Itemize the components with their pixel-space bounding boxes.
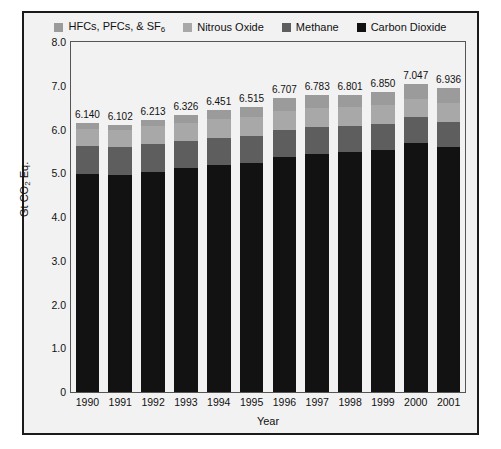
x-tick-label-1993: 1993 xyxy=(174,396,197,408)
legend-swatch-carbon-dioxide xyxy=(357,23,366,32)
bar-value-label: 6.936 xyxy=(436,74,461,85)
y-tick-label: 5.0 xyxy=(51,167,66,179)
bar-segment xyxy=(174,141,198,168)
bar-segment xyxy=(338,95,362,108)
bar-segment xyxy=(437,103,461,121)
bar-value-label: 6.102 xyxy=(108,111,133,122)
bar-1997[interactable]: 6.783 xyxy=(305,95,329,392)
bar-segment xyxy=(338,152,362,392)
x-axis-title: Year xyxy=(70,415,466,427)
legend-swatch-hfcs-pfcs-sf6 xyxy=(54,23,63,32)
bar-value-label: 6.801 xyxy=(338,81,363,92)
y-tick-label: 4.0 xyxy=(51,211,66,223)
y-tick-label: 7.0 xyxy=(51,80,66,92)
bar-segment xyxy=(273,130,297,157)
legend-label-carbon-dioxide: Carbon Dioxide xyxy=(371,21,447,33)
bar-2000[interactable]: 7.047 xyxy=(404,84,428,392)
bar-1990[interactable]: 6.140 xyxy=(76,123,100,392)
bar-segment xyxy=(371,105,395,123)
bar-segment xyxy=(76,146,100,174)
legend-item-hfcs-pfcs-sf6[interactable]: HFCs, PFCs, & SF6 xyxy=(54,20,165,34)
bar-segment xyxy=(76,129,100,147)
bar-segment xyxy=(174,123,198,141)
bar-segment xyxy=(240,136,264,163)
bar-1994[interactable]: 6.451 xyxy=(207,110,231,392)
bar-1998[interactable]: 6.801 xyxy=(338,95,362,393)
legend-label-nitrous-oxide: Nitrous Oxide xyxy=(197,21,264,33)
bar-value-label: 6.140 xyxy=(75,109,100,120)
x-tick-label-2000: 2000 xyxy=(404,396,427,408)
bar-segment xyxy=(371,150,395,392)
x-tick-label-1994: 1994 xyxy=(207,396,230,408)
bar-segment xyxy=(338,126,362,152)
y-tick-label: 3.0 xyxy=(51,255,66,267)
bar-segment xyxy=(305,108,329,127)
chart-legend: HFCs, PFCs, & SF6Nitrous OxideMethaneCar… xyxy=(24,16,477,38)
bar-value-label: 6.850 xyxy=(370,78,395,89)
bar-segment xyxy=(174,168,198,392)
x-tick-label-1999: 1999 xyxy=(371,396,394,408)
bar-1996[interactable]: 6.707 xyxy=(273,98,297,392)
legend-swatch-methane xyxy=(282,23,291,32)
legend-item-carbon-dioxide[interactable]: Carbon Dioxide xyxy=(357,21,447,33)
bar-segment xyxy=(437,88,461,103)
y-tick-label: 1.0 xyxy=(51,342,66,354)
bar-segment xyxy=(174,115,198,123)
bar-segment xyxy=(305,95,329,108)
bar-segment xyxy=(240,163,264,392)
x-axis: 1990199119921993199419951996199719981999… xyxy=(70,396,466,412)
x-tick-label-1990: 1990 xyxy=(76,396,99,408)
bar-1995[interactable]: 6.515 xyxy=(240,107,264,392)
bar-segment xyxy=(240,117,264,136)
bar-value-label: 6.451 xyxy=(206,96,231,107)
bar-2001[interactable]: 6.936 xyxy=(437,88,461,392)
y-tick-label: 8.0 xyxy=(51,36,66,48)
bar-segment xyxy=(305,154,329,392)
x-tick-label-2001: 2001 xyxy=(437,396,460,408)
bar-segment xyxy=(273,98,297,110)
bar-1999[interactable]: 6.850 xyxy=(371,92,395,392)
bar-value-label: 6.213 xyxy=(141,106,166,117)
bar-segment xyxy=(108,130,132,148)
bar-segment xyxy=(141,172,165,392)
bar-segment xyxy=(338,107,362,126)
bar-segment xyxy=(437,122,461,147)
legend-item-nitrous-oxide[interactable]: Nitrous Oxide xyxy=(183,21,264,33)
bar-segment xyxy=(371,124,395,150)
bar-1993[interactable]: 6.326 xyxy=(174,115,198,392)
bar-segment xyxy=(305,127,329,154)
bar-segment xyxy=(207,138,231,165)
bars-container: 6.1406.1026.2136.3266.4516.5156.7076.783… xyxy=(71,42,465,392)
x-tick-label-1996: 1996 xyxy=(273,396,296,408)
figure-frame: HFCs, PFCs, & SF6Nitrous OxideMethaneCar… xyxy=(22,11,479,435)
bar-segment xyxy=(76,174,100,392)
bar-segment xyxy=(371,92,395,105)
bar-1991[interactable]: 6.102 xyxy=(108,125,132,392)
bar-value-label: 6.515 xyxy=(239,93,264,104)
legend-item-methane[interactable]: Methane xyxy=(282,21,339,33)
bar-segment xyxy=(273,157,297,392)
legend-label-methane: Methane xyxy=(296,21,339,33)
x-tick-label-1992: 1992 xyxy=(141,396,164,408)
bar-segment xyxy=(108,147,132,175)
bar-segment xyxy=(108,175,132,392)
legend-label-hfcs-pfcs-sf6: HFCs, PFCs, & SF6 xyxy=(68,20,165,34)
bar-segment xyxy=(240,107,264,117)
y-tick-label: 2.0 xyxy=(51,299,66,311)
bar-segment xyxy=(207,119,231,138)
y-axis-title: Gt CO2 Eq. xyxy=(18,162,32,217)
y-tick-label: 6.0 xyxy=(51,124,66,136)
bar-segment xyxy=(404,143,428,392)
bar-value-label: 6.707 xyxy=(272,84,297,95)
bar-segment xyxy=(207,165,231,392)
x-tick-label-1991: 1991 xyxy=(109,396,132,408)
bar-segment xyxy=(141,126,165,144)
bar-segment xyxy=(437,147,461,392)
bar-value-label: 6.783 xyxy=(305,81,330,92)
bar-value-label: 7.047 xyxy=(403,70,428,81)
bar-segment xyxy=(404,117,428,143)
x-tick-label-1995: 1995 xyxy=(240,396,263,408)
x-tick-label-1998: 1998 xyxy=(338,396,361,408)
y-axis: 8.07.06.05.04.03.02.01.00 xyxy=(46,41,70,393)
bar-1992[interactable]: 6.213 xyxy=(141,120,165,392)
